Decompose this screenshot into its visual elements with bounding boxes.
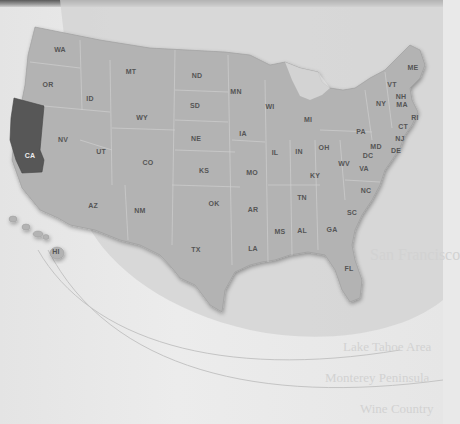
- state-label-nh[interactable]: NH: [396, 93, 407, 100]
- state-label-ms[interactable]: MS: [275, 228, 286, 235]
- state-label-nj[interactable]: NJ: [395, 135, 404, 142]
- state-label-mn[interactable]: MN: [230, 88, 241, 95]
- state-label-ia[interactable]: IA: [239, 130, 246, 137]
- state-label-in[interactable]: IN: [295, 148, 302, 155]
- state-label-va[interactable]: VA: [359, 165, 369, 172]
- state-label-wi[interactable]: WI: [266, 103, 275, 110]
- state-label-tn[interactable]: TN: [297, 194, 307, 201]
- state-label-co[interactable]: CO: [143, 159, 154, 166]
- state-label-ri[interactable]: RI: [411, 114, 418, 121]
- state-label-mo[interactable]: MO: [246, 169, 258, 176]
- state-label-ut[interactable]: UT: [96, 148, 106, 155]
- state-label-ny[interactable]: NY: [376, 100, 386, 107]
- state-label-al[interactable]: AL: [297, 227, 307, 234]
- state-label-ok[interactable]: OK: [209, 200, 220, 207]
- state-label-dc[interactable]: DC: [363, 152, 374, 159]
- state-label-oh[interactable]: OH: [319, 144, 330, 151]
- state-label-ct[interactable]: CT: [398, 123, 408, 130]
- state-label-nd[interactable]: ND: [192, 72, 203, 79]
- state-label-pa[interactable]: PA: [356, 128, 366, 135]
- state-label-wy[interactable]: WY: [136, 114, 148, 121]
- state-label-nc[interactable]: NC: [361, 187, 372, 194]
- state-label-ca[interactable]: CA: [25, 152, 36, 159]
- state-label-id[interactable]: ID: [86, 95, 93, 102]
- state-label-sd[interactable]: SD: [190, 102, 200, 109]
- state-label-mi[interactable]: MI: [304, 116, 312, 123]
- state-label-or[interactable]: OR: [43, 81, 54, 88]
- state-label-ar[interactable]: AR: [248, 206, 259, 213]
- state-label-ks[interactable]: KS: [199, 167, 209, 174]
- state-label-nv[interactable]: NV: [58, 136, 68, 143]
- state-label-nm[interactable]: NM: [134, 207, 145, 214]
- state-label-hi[interactable]: HI: [52, 248, 59, 255]
- bleed-through-line: Monterey Peninsula: [325, 370, 429, 386]
- bleed-through-line: Lake Tahoe Area: [343, 339, 431, 355]
- state-label-mt[interactable]: MT: [126, 68, 137, 75]
- state-label-de[interactable]: DE: [391, 147, 401, 154]
- state-label-ma[interactable]: MA: [396, 101, 407, 108]
- state-label-ga[interactable]: GA: [327, 226, 338, 233]
- bleed-through-line: San Francisco: [370, 246, 460, 264]
- state-label-wv[interactable]: WV: [338, 160, 350, 167]
- state-label-il[interactable]: IL: [272, 149, 279, 156]
- state-label-la[interactable]: LA: [248, 245, 258, 252]
- state-label-az[interactable]: AZ: [88, 202, 98, 209]
- state-label-vt[interactable]: VT: [387, 81, 396, 88]
- bleed-through-line: Wine Country: [360, 401, 434, 417]
- state-label-tx[interactable]: TX: [191, 246, 200, 253]
- state-label-fl[interactable]: FL: [345, 265, 354, 272]
- state-label-wa[interactable]: WA: [54, 46, 66, 53]
- state-label-md[interactable]: MD: [370, 143, 381, 150]
- state-label-ky[interactable]: KY: [310, 172, 320, 179]
- state-label-sc[interactable]: SC: [347, 209, 357, 216]
- state-label-ne[interactable]: NE: [191, 135, 201, 142]
- state-label-me[interactable]: ME: [408, 64, 419, 71]
